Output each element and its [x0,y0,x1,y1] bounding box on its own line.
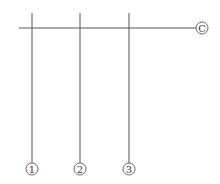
axis-label-3: 3 [126,164,132,175]
axis-label-1: 1 [29,164,35,175]
axis-label-c: C [198,23,206,34]
axis-label-2: 2 [77,164,83,175]
axis-grid-diagram: C 1 2 3 [0,0,220,184]
